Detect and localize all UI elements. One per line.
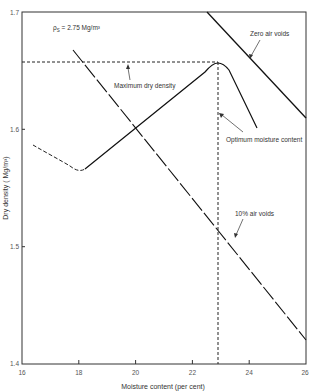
max-dry-density-arrowhead xyxy=(126,64,130,69)
zero-air-voids-label: Zero air voids xyxy=(250,30,290,37)
optimum-moisture-label: Optimum moisture content xyxy=(226,136,302,144)
ten-percent-air-voids-line xyxy=(73,50,306,340)
zero-air-voids-line xyxy=(207,12,306,118)
optimum-moisture-arrowhead xyxy=(219,113,224,118)
svg-text:18: 18 xyxy=(75,369,83,376)
plot-frame xyxy=(22,12,306,364)
svg-text:1.7: 1.7 xyxy=(10,9,19,16)
compaction-curve-dashed xyxy=(33,145,85,170)
optimum-moisture-arrow xyxy=(222,115,243,132)
ten-percent-air-voids-arrow xyxy=(236,219,243,235)
x-axis-ticks xyxy=(79,360,249,364)
svg-text:1.6: 1.6 xyxy=(10,126,19,133)
svg-text:24: 24 xyxy=(246,369,254,376)
zero-air-voids-arrow xyxy=(251,40,260,56)
svg-text:26: 26 xyxy=(301,369,309,376)
particle-density-label: ρS = 2.75 Mg/m³ xyxy=(53,24,101,33)
y-axis-label: Dry density ( Mg/m³) xyxy=(2,156,10,219)
svg-text:1.5: 1.5 xyxy=(10,243,19,250)
max-dry-density-label: Maximum dry density xyxy=(114,82,176,90)
compaction-curve-solid xyxy=(85,63,257,169)
ten-percent-air-voids-arrowhead xyxy=(234,233,238,238)
max-dry-density-arrow xyxy=(128,68,130,80)
x-tick-labels: 16 18 20 22 24 26 xyxy=(18,369,309,376)
compaction-chart: 1.4 1.5 1.6 1.7 16 18 20 22 24 26 Moistu… xyxy=(0,0,312,392)
y-tick-labels: 1.4 1.5 1.6 1.7 xyxy=(10,9,19,367)
svg-text:20: 20 xyxy=(132,369,140,376)
svg-text:22: 22 xyxy=(189,369,197,376)
svg-text:1.4: 1.4 xyxy=(10,360,19,367)
ten-percent-air-voids-label: 10% air voids xyxy=(235,210,275,217)
svg-text:16: 16 xyxy=(18,369,26,376)
x-axis-label: Moisture content (per cent) xyxy=(121,383,205,391)
